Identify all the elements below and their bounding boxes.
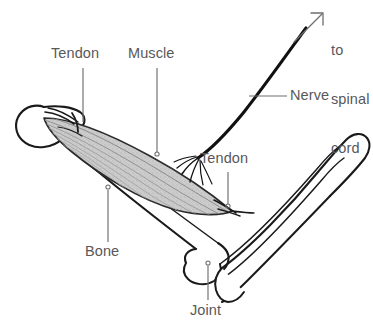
label-tendon-upper: Tendon <box>51 45 99 62</box>
anatomy-figure: Tendon Muscle Nerve Tendon Bone Joint to… <box>0 0 373 332</box>
label-to-spinal-cord: to spinal cord <box>331 10 370 189</box>
label-bone: Bone <box>85 243 119 260</box>
biceps-muscle <box>44 113 240 230</box>
label-tendon-lower: Tendon <box>200 150 248 167</box>
label-nerve: Nerve <box>290 87 329 104</box>
label-to-spinal-cord-line1: to <box>331 42 370 58</box>
label-joint: Joint <box>190 302 221 319</box>
label-to-spinal-cord-line2: spinal <box>331 91 370 107</box>
label-muscle: Muscle <box>128 45 175 62</box>
arrow-up-right-icon <box>294 13 323 42</box>
label-to-spinal-cord-line3: cord <box>331 140 370 156</box>
